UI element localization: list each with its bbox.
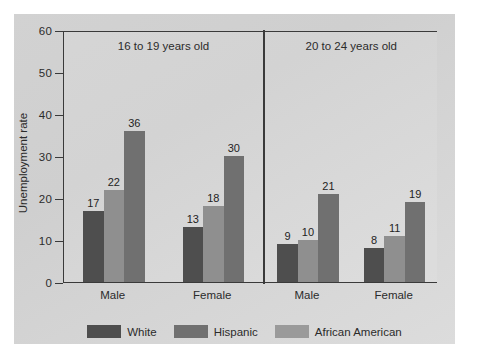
legend-item: Hispanic bbox=[174, 325, 258, 338]
bar: 17 bbox=[83, 211, 104, 282]
bar: 10 bbox=[298, 240, 319, 282]
bar: 8 bbox=[364, 248, 385, 282]
panel-title: 20 to 24 years old bbox=[265, 40, 438, 52]
plot-area: 16 to 19 years old17223613183020 to 24 y… bbox=[63, 31, 437, 283]
bar-value-label: 11 bbox=[389, 222, 400, 234]
x-axis-group-label: Female bbox=[374, 289, 412, 301]
legend-swatch bbox=[174, 325, 208, 338]
legend-label: African American bbox=[315, 326, 402, 338]
legend-swatch bbox=[275, 325, 309, 338]
bar: 9 bbox=[277, 244, 298, 282]
bar-value-label: 36 bbox=[128, 117, 140, 129]
bar-value-label: 21 bbox=[322, 180, 334, 192]
bar-value-label: 8 bbox=[371, 234, 377, 246]
bar: 13 bbox=[183, 227, 204, 282]
y-axis-tick-label: 50 bbox=[39, 67, 52, 79]
bar-value-label: 13 bbox=[187, 213, 199, 225]
bar: 11 bbox=[384, 236, 405, 282]
legend-item: White bbox=[87, 325, 156, 338]
bar: 30 bbox=[224, 156, 245, 282]
legend-label: White bbox=[127, 326, 156, 338]
y-axis-tick bbox=[55, 157, 63, 158]
y-axis-tick-label: 40 bbox=[39, 109, 52, 121]
y-axis-tick-label: 20 bbox=[39, 193, 52, 205]
bar: 19 bbox=[405, 202, 426, 282]
y-axis-tick bbox=[55, 73, 63, 74]
legend-swatch bbox=[87, 325, 121, 338]
bar-value-label: 30 bbox=[228, 142, 240, 154]
y-axis-tick bbox=[55, 241, 63, 242]
y-axis-tick-label: 0 bbox=[45, 277, 52, 289]
legend-label: Hispanic bbox=[214, 326, 258, 338]
y-axis-tick bbox=[55, 115, 63, 116]
bar-value-label: 17 bbox=[87, 197, 99, 209]
bar-value-label: 9 bbox=[284, 230, 290, 242]
bar: 22 bbox=[104, 190, 125, 282]
y-axis-tick-label: 30 bbox=[39, 151, 52, 163]
chart-figure: Unemployment rate 0102030405060 16 to 19… bbox=[0, 0, 489, 358]
y-axis-tick-label: 10 bbox=[39, 235, 52, 247]
chart-legend: WhiteHispanicAfrican American bbox=[0, 325, 489, 338]
bar-value-label: 10 bbox=[302, 226, 314, 238]
x-axis-group-label: Male bbox=[294, 289, 319, 301]
panel-title: 16 to 19 years old bbox=[64, 40, 263, 52]
x-axis-group-label: Male bbox=[100, 289, 125, 301]
bar: 18 bbox=[203, 206, 224, 282]
y-axis: Unemployment rate 0102030405060 bbox=[0, 31, 63, 283]
y-axis-title: Unemployment rate bbox=[17, 73, 29, 253]
plot-inner: 16 to 19 years old17223613183020 to 24 y… bbox=[64, 32, 437, 282]
y-axis-tick bbox=[55, 31, 63, 32]
bar-value-label: 18 bbox=[207, 192, 219, 204]
bar: 36 bbox=[124, 131, 145, 282]
bar-value-label: 19 bbox=[409, 188, 421, 200]
legend-item: African American bbox=[275, 325, 402, 338]
bar-value-label: 22 bbox=[108, 176, 120, 188]
y-axis-tick-label: 60 bbox=[39, 25, 52, 37]
bar: 21 bbox=[318, 194, 339, 282]
x-axis-group-label: Female bbox=[193, 289, 231, 301]
y-axis-tick bbox=[55, 283, 63, 284]
panel-divider bbox=[263, 30, 265, 283]
y-axis-tick bbox=[55, 199, 63, 200]
